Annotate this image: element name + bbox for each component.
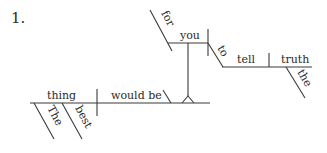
infinitive-subject-word: you (179, 29, 200, 42)
predicate-nominative-tick (163, 90, 171, 103)
modifier-word-the: The (44, 103, 65, 128)
item-number: 1. (11, 9, 25, 27)
subject-word: thing (47, 89, 76, 102)
object-word: truth (281, 53, 309, 66)
pedestal-foot (182, 96, 194, 103)
verb-word: would be (111, 89, 162, 102)
sentence-diagram: 1. thing would be The best for you to te… (0, 0, 327, 153)
preposition-word-for: for (158, 8, 177, 29)
infinitive-verb-word: tell (237, 53, 255, 66)
modifier-word-best: best (72, 103, 95, 130)
